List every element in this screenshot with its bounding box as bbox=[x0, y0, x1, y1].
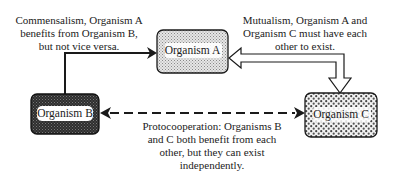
protocooperation-caption: Protocooperation: Organisms B and C both… bbox=[127, 120, 297, 172]
caption-line: other, but they can exist bbox=[127, 146, 297, 159]
caption-line: benefits from Organism B, bbox=[4, 27, 154, 40]
caption-line: Protocooperation: Organisms B bbox=[127, 120, 297, 133]
caption-line: Organism C must have each bbox=[230, 27, 380, 40]
protocooperation-arrow bbox=[100, 107, 305, 119]
mutualism-caption: Mutualism, Organism A and Organism C mus… bbox=[230, 14, 380, 53]
caption-line: and C both benefit from each bbox=[127, 133, 297, 146]
commensalism-caption: Commensalism, Organism A benefits from O… bbox=[4, 14, 154, 53]
caption-line: other to exist. bbox=[230, 40, 380, 53]
mutualism-arrow bbox=[229, 48, 351, 93]
caption-line: independently. bbox=[127, 159, 297, 172]
node-label-organism-b: Organism B bbox=[31, 107, 99, 120]
node-label-organism-c: Organism C bbox=[305, 108, 377, 121]
caption-line: but not vice versa. bbox=[4, 40, 154, 53]
node-label-organism-a: Organism A bbox=[157, 44, 228, 57]
caption-line: Commensalism, Organism A bbox=[4, 14, 154, 27]
commensalism-arrow bbox=[65, 47, 157, 94]
caption-line: Mutualism, Organism A and bbox=[230, 14, 380, 27]
